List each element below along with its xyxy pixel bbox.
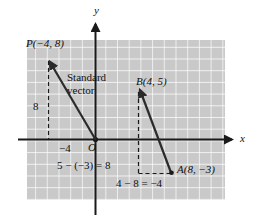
point-label-a: A(8, −3): [177, 164, 215, 175]
measure-label-horizontal-neg4: −4: [59, 143, 71, 154]
point-label-b: B(4, 5): [136, 76, 167, 87]
point-label-p: P(−4, 8): [26, 38, 64, 49]
x-component-equation: 4 − 8 = −4: [116, 178, 162, 189]
point-a-dot: [169, 171, 174, 176]
y-axis-label: y: [94, 4, 99, 16]
y-component-equation: 5 − (−3) = 8: [57, 160, 110, 171]
grid-background: [27, 40, 225, 200]
measure-label-vertical-8: 8: [33, 101, 39, 112]
vector-diagram-figure: y x O P(−4, 8) B(4, 5) A(8, −3) Standard…: [0, 0, 259, 220]
x-axis-label: x: [240, 132, 245, 144]
standard-vector-callout: Standard vector: [67, 71, 129, 96]
origin-label: O: [88, 142, 96, 153]
